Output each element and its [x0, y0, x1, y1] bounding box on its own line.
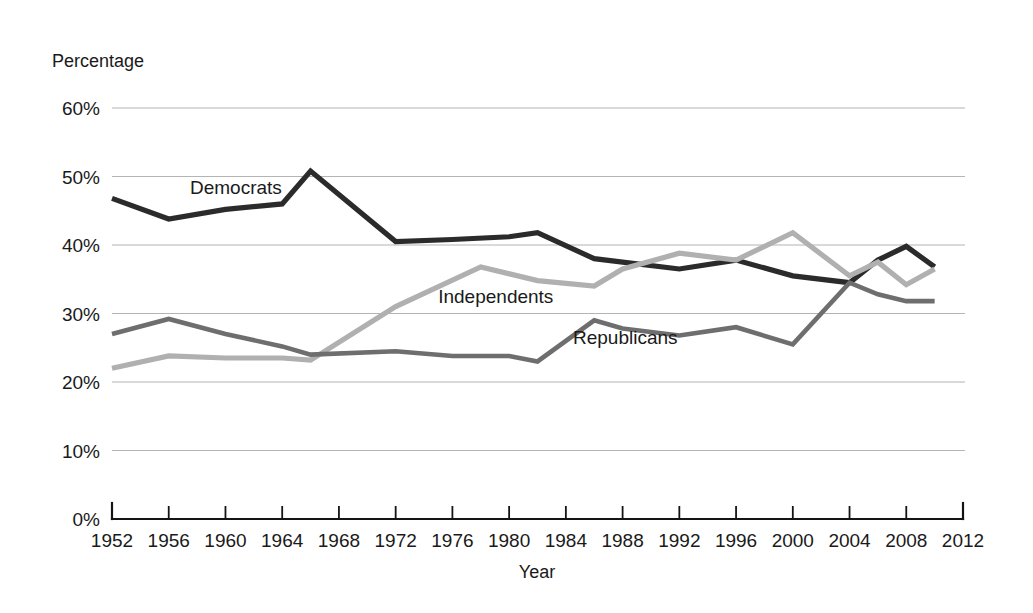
x-tick-label-1968: 1968: [318, 530, 360, 551]
y-tick-label-50: 50%: [62, 167, 100, 188]
y-axis-title: Percentage: [52, 51, 144, 71]
x-tick-label-2000: 2000: [772, 530, 814, 551]
x-tick-label-1972: 1972: [375, 530, 417, 551]
axes-group: [112, 503, 963, 519]
line-chart: 0%10%20%30%40%50%60% 1952195619601964196…: [0, 0, 1033, 613]
data-series-group: [112, 171, 935, 368]
x-tick-label-1952: 1952: [91, 530, 133, 551]
y-tick-label-60: 60%: [62, 98, 100, 119]
x-tick-label-1984: 1984: [545, 530, 588, 551]
x-tick-label-2004: 2004: [828, 530, 871, 551]
y-axis-tick-labels: 0%10%20%30%40%50%60%: [62, 98, 100, 530]
x-tick-label-1976: 1976: [431, 530, 473, 551]
x-tick-label-1956: 1956: [148, 530, 190, 551]
y-tick-label-0: 0%: [73, 509, 101, 530]
x-axis-title: Year: [519, 562, 555, 582]
x-tick-label-1964: 1964: [261, 530, 304, 551]
y-tick-label-10: 10%: [62, 441, 100, 462]
series-label-republicans: Republicans: [573, 327, 678, 348]
x-tick-label-2008: 2008: [885, 530, 927, 551]
chart-page: 0%10%20%30%40%50%60% 1952195619601964196…: [0, 0, 1033, 613]
x-tick-label-1992: 1992: [658, 530, 700, 551]
x-tick-label-1996: 1996: [715, 530, 757, 551]
series-label-independents: Independents: [438, 286, 553, 307]
y-tick-label-20: 20%: [62, 372, 100, 393]
series-label-democrats: Democrats: [190, 177, 282, 198]
x-tick-label-1960: 1960: [204, 530, 246, 551]
y-tick-label-40: 40%: [62, 235, 100, 256]
x-axis-tick-labels: 1952195619601964196819721976198019841988…: [91, 530, 984, 551]
y-tick-label-30: 30%: [62, 304, 100, 325]
x-tick-label-1988: 1988: [601, 530, 643, 551]
x-tick-label-1980: 1980: [488, 530, 530, 551]
x-tick-marks-group: [169, 506, 907, 519]
x-tick-label-2012: 2012: [942, 530, 984, 551]
